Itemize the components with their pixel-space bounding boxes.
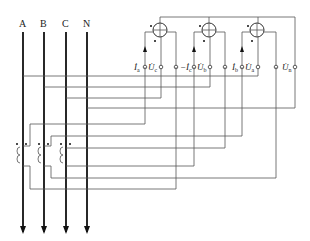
voltage-lines (23, 67, 295, 108)
meter-3 (240, 23, 276, 67)
phase-label-c: C (62, 18, 69, 29)
terminal-label-ib: İb (231, 62, 238, 73)
terminals (143, 65, 297, 69)
arrow-down-icon (84, 226, 90, 234)
terminal-label-ub: U̇b (197, 62, 207, 73)
terminal-label-ia: İa (133, 62, 140, 73)
meter-2 (192, 23, 225, 67)
terminal-label-minus-ic: −İc (180, 62, 192, 73)
arrow-down-icon (20, 226, 26, 234)
phase-buses (20, 32, 90, 234)
phase-label-a: A (19, 18, 27, 29)
wiring-diagram: A B C N (0, 0, 310, 241)
terminal-label-ua: U̇a (245, 62, 255, 73)
arrow-up-icon (240, 46, 244, 52)
arrow-up-icon (192, 46, 196, 52)
meter-1 (143, 23, 176, 67)
phase-label-b: B (40, 18, 47, 29)
arrow-down-icon (41, 226, 47, 234)
arrow-down-icon (63, 226, 69, 234)
phase-label-n: N (83, 18, 90, 29)
neutral-common-bus (160, 17, 295, 67)
ct-secondary-wiring (23, 67, 276, 189)
terminal-label-uc: U̇c (148, 62, 158, 73)
terminal-label-un: U̇n (282, 62, 292, 73)
arrow-up-icon (143, 46, 147, 52)
